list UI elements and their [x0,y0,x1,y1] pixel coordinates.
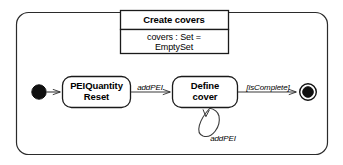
state-label-define-cover-line1: Define [172,80,238,91]
composite-state-attribute-line2: EmptySet [120,42,228,53]
transition-label-self-loop-addpei: addPEI [203,133,243,144]
composite-state-name: Create covers [120,14,228,25]
state-label-define-cover-line2: cover [172,91,238,102]
state-label-peiquantity-reset-line1: PEIQuantity [62,80,131,91]
state-label-peiquantity-reset-line2: Reset [62,91,131,102]
transition-label-addpei: addPEI [129,82,171,93]
transition-label-iscomplete: [isComplete] [239,82,297,93]
initial-state-marker [32,85,46,99]
uml-state-diagram: Create covers covers : Set = EmptySet PE… [0,0,343,165]
final-state-inner-dot [303,87,314,98]
